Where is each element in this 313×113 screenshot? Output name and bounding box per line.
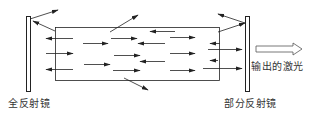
output-laser-label: 输出的激光 (251, 58, 304, 73)
right-mirror-label: 部分反射镜 (224, 95, 277, 110)
output-laser-arrow-icon (256, 43, 302, 55)
escaping-photon-arrow-icon (110, 15, 138, 32)
escaping-photon-arrow-icon (124, 78, 148, 90)
left-mirror-label: 全反射镜 (8, 95, 50, 110)
escaping-photon-arrow-icon (30, 10, 58, 19)
escaping-photon-arrow-icon (218, 23, 245, 32)
escaping-photon-arrow-icon (33, 21, 55, 31)
escaping-photon-arrow-icon (218, 14, 245, 23)
right-mirror (246, 17, 250, 92)
left-mirror (27, 17, 31, 92)
gain-medium-box (56, 28, 220, 81)
